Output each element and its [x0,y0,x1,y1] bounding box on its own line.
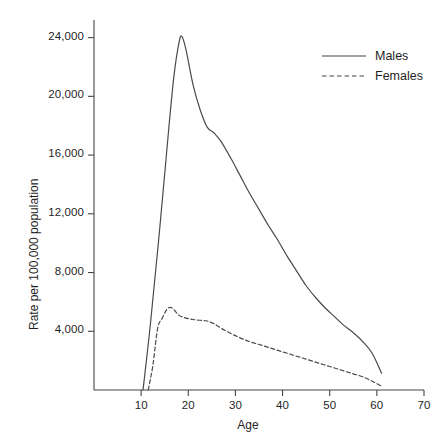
series-line-males [143,36,382,390]
x-axis-tick-label: 60 [357,399,397,411]
x-axis-tick-label: 20 [168,399,208,411]
legend-item-females: Females [322,66,440,86]
x-axis-tick-label: 10 [121,399,161,411]
data-series [143,36,382,390]
legend-swatch-solid-icon [322,51,366,61]
series-line-females [148,307,381,390]
y-axis-title: Rate per 100,000 population [27,100,41,330]
chart-figure: 4,0008,00012,00016,00020,00024,000 10203… [0,0,442,443]
legend-swatch-dashed-icon [322,71,366,81]
x-axis-tick-label: 30 [215,399,255,411]
x-axis-tick-label: 50 [310,399,350,411]
chart-legend: Males Females [322,46,440,86]
legend-label-males: Males [366,49,408,63]
x-axis-tick-label: 40 [263,399,303,411]
y-axis-tick-label: 24,000 [30,30,84,42]
y-axis-ticks [88,38,94,332]
y-axis-tick-label: 20,000 [30,88,84,100]
x-axis-ticks [141,390,424,396]
legend-label-females: Females [366,69,423,83]
x-axis-title: Age [218,418,278,432]
x-axis-tick-label: 70 [404,399,442,411]
legend-item-males: Males [322,46,440,66]
